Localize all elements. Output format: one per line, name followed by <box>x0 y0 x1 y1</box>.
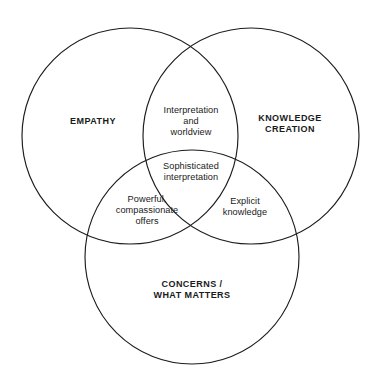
label-intersection-powerful-compassionate-offers: Powerful, compassionate offers <box>116 194 178 228</box>
venn-diagram: EMPATHY KNOWLEDGE CREATION CONCERNS / WH… <box>0 0 382 391</box>
label-intersection-explicit-knowledge: Explicit knowledge <box>223 196 267 218</box>
label-intersection-sophisticated-interpretation: Sophisticated interpretation <box>163 161 219 183</box>
label-concerns-what-matters: CONCERNS / WHAT MATTERS <box>153 279 230 301</box>
venn-circles-canvas <box>0 0 382 391</box>
label-knowledge-creation: KNOWLEDGE CREATION <box>258 113 322 135</box>
label-intersection-interpretation-and-worldview: Interpretation and worldview <box>164 105 219 139</box>
label-empathy: EMPATHY <box>70 116 116 127</box>
